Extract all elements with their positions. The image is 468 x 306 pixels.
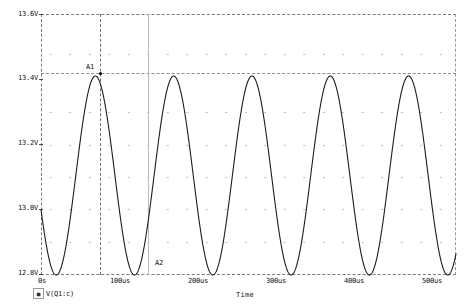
x-tick-label: 0s: [38, 277, 46, 285]
x-tick-label: 400us: [344, 277, 364, 285]
waveform-trace: [41, 14, 456, 275]
y-tick-13p2: 13.2V: [0, 139, 38, 148]
y-tick-13p4: 13.4V: [0, 74, 38, 83]
y-tick-13p0: 13.0V: [0, 204, 38, 213]
x-tick-label: 300us: [266, 277, 286, 285]
waveform-viewer: 13.6V 13.4V 13.2V 13.0V 12.8V A1 A2 0s 1…: [0, 0, 468, 306]
x-axis-title: Time: [236, 291, 254, 299]
y-tick-label: 13.6V: [18, 10, 38, 18]
annotation-a1-label: A1: [86, 63, 94, 71]
cursor-a1-marker-dot[interactable]: [99, 72, 102, 75]
y-tick-label: 13.0V: [18, 204, 38, 212]
y-tick-label: 13.2V: [18, 139, 38, 147]
annotation-a2-label: A2: [155, 259, 163, 267]
y-tick-13p6: 13.6V: [0, 10, 38, 19]
legend-trace-label[interactable]: V(Q1:c): [46, 290, 74, 298]
x-tick-label: 500us: [422, 277, 442, 285]
y-tick-12p8: 12.8V: [0, 269, 38, 278]
y-tick-label: 13.4V: [18, 74, 38, 82]
x-tick-label: 100us: [110, 277, 130, 285]
legend-marker-icon[interactable]: ■: [33, 288, 44, 299]
y-tick-label: 12.8V: [18, 269, 38, 277]
legend-square-icon: ■: [37, 291, 41, 297]
x-tick-label: 200us: [188, 277, 208, 285]
legend[interactable]: ■ V(Q1:c): [33, 288, 74, 299]
